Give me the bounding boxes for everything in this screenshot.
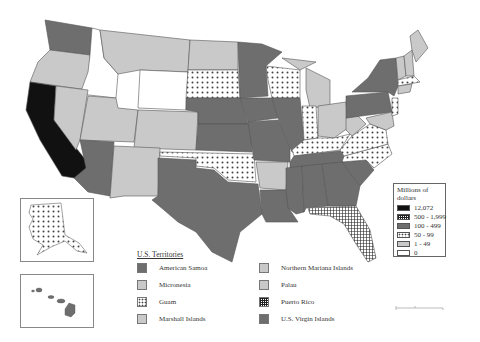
state-utah: [80, 96, 138, 142]
legend-row: 0: [397, 248, 442, 257]
state-kansas: [196, 124, 252, 152]
swatch-light-gray: [137, 280, 147, 290]
state-new-york: [352, 58, 398, 96]
legend-label: 50 - 99: [414, 231, 434, 239]
legend-label: 1 - 49: [414, 240, 430, 248]
state-montana: [100, 30, 190, 74]
territory-guam: Guam: [137, 296, 259, 307]
legend-row: 1 - 49: [397, 239, 442, 248]
territories-legend: U.S. Territories American Samoa Northern…: [137, 250, 377, 324]
legend-label: 100 - 499: [414, 222, 441, 230]
state-ohio: [318, 102, 348, 138]
state-north-dakota: [188, 40, 238, 70]
territory-label: Northern Mariana Islands: [281, 264, 353, 272]
state-arkansas: [256, 162, 288, 190]
state-new-hampshire: [404, 50, 414, 76]
legend-row: 12,072: [397, 203, 442, 212]
map-legend: Millions of dollars 12,072 500 - 1,999 1…: [393, 183, 446, 257]
legend-title-line2: dollars: [397, 194, 416, 202]
swatch-white: [397, 250, 410, 256]
swatch-crosshatch: [397, 214, 410, 220]
state-indiana: [302, 106, 318, 140]
swatch-dark-gray: [397, 223, 410, 229]
territories-grid: American Samoa Northern Mariana Islands …: [137, 262, 377, 324]
state-washington: [45, 20, 92, 55]
territory-label: U.S. Virgin Islands: [281, 315, 334, 323]
legend-row: 100 - 499: [397, 221, 442, 230]
territory-label: Puerto Rico: [281, 298, 314, 306]
territory-palau: Palau: [259, 279, 377, 290]
hawaii-shape: [21, 275, 93, 327]
alaska-inset: [20, 198, 94, 262]
legend-label: 0: [414, 249, 418, 257]
legend-title: Millions of dollars: [397, 186, 442, 202]
state-south-dakota: [186, 70, 240, 98]
swatch-light-gray: [259, 280, 269, 290]
territory-label: Micronesia: [159, 281, 191, 289]
swatch-dots: [137, 297, 147, 307]
territory-marshall-islands: Marshall Islands: [137, 313, 259, 324]
state-colorado: [134, 110, 198, 150]
territory-northern-mariana-islands: Northern Mariana Islands: [259, 262, 377, 273]
territory-micronesia: Micronesia: [137, 279, 259, 290]
state-connecticut: [398, 84, 412, 94]
territories-title: U.S. Territories: [137, 250, 195, 259]
swatch-dots: [397, 232, 410, 238]
territory-puerto-rico: Puerto Rico: [259, 296, 377, 307]
territory-label: American Samoa: [159, 264, 207, 272]
swatch-dark-gray: [137, 263, 147, 273]
scale-bar: [395, 305, 445, 313]
swatch-light-gray: [397, 241, 410, 247]
swatch-light-gray: [259, 263, 269, 273]
legend-title-line1: Millions of: [397, 186, 428, 194]
swatch-dark-gray: [259, 314, 269, 324]
state-new-mexico: [110, 146, 160, 198]
state-wyoming: [138, 70, 188, 110]
legend-label: 500 - 1,999: [414, 213, 446, 221]
legend-row: 500 - 1,999: [397, 212, 442, 221]
hawaii-inset: [20, 274, 94, 328]
territory-us-virgin-islands: U.S. Virgin Islands: [259, 313, 377, 324]
swatch-black: [397, 205, 410, 211]
legend-label: 12,072: [414, 204, 433, 212]
state-wisconsin: [266, 66, 300, 98]
territory-label: Marshall Islands: [159, 315, 205, 323]
territory-american-samoa: American Samoa: [137, 262, 259, 273]
swatch-crosshatch: [259, 297, 269, 307]
state-mississippi: [286, 166, 304, 214]
state-new-jersey: [392, 98, 398, 116]
alaska-shape: [21, 199, 93, 261]
swatch-light-gray: [137, 314, 147, 324]
territory-label: Guam: [159, 298, 176, 306]
territory-label: Palau: [281, 281, 297, 289]
legend-row: 50 - 99: [397, 230, 442, 239]
